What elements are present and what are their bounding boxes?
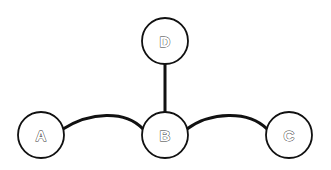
node-a-label: A (36, 127, 47, 144)
node-b: B (142, 112, 188, 158)
node-d: D (142, 18, 188, 64)
node-b-label: B (160, 127, 171, 144)
node-c: C (266, 112, 312, 158)
node-d-label: D (160, 33, 171, 50)
edge-a-b (63, 115, 143, 129)
node-c-label: C (284, 127, 295, 144)
node-a: A (18, 112, 64, 158)
graph-diagram: D A B C (0, 0, 331, 170)
edge-b-c (187, 115, 267, 129)
